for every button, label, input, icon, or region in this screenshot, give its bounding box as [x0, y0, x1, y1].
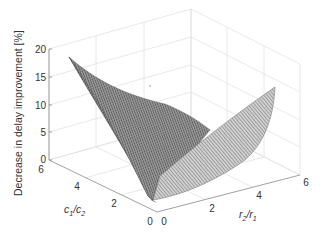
svg-text:2: 2 — [209, 203, 215, 214]
svg-text:0: 0 — [161, 216, 167, 227]
x-ticks: 6 4 2 0 — [38, 164, 153, 227]
artifact-dot — [149, 85, 151, 87]
surface-mesh — [69, 57, 275, 203]
svg-text:0: 0 — [147, 216, 153, 227]
svg-text:15: 15 — [35, 72, 47, 83]
svg-text:5: 5 — [40, 127, 46, 138]
z-axis-label: Decrease in delay improvement [%] — [12, 30, 24, 196]
surface-plot: 20 15 10 5 0 6 4 2 0 0 2 4 6 Decrease in… — [0, 0, 324, 236]
svg-text:10: 10 — [35, 100, 47, 111]
svg-text:4: 4 — [74, 181, 80, 192]
svg-text:4: 4 — [256, 190, 262, 201]
svg-text:6: 6 — [303, 177, 309, 188]
y-axis-label: r2/r1 — [239, 208, 257, 222]
x-axis-label: c1/c2 — [64, 203, 85, 217]
svg-text:20: 20 — [35, 44, 47, 55]
svg-text:2: 2 — [111, 198, 117, 209]
z-ticks: 20 15 10 5 0 — [35, 44, 52, 166]
svg-text:6: 6 — [38, 164, 44, 175]
